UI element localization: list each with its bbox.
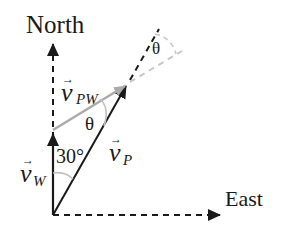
v-w-base: v [20,159,32,188]
angle-30-label: 30° [56,145,84,167]
angle-30-arc [53,173,73,179]
theta-inner-label: θ [85,113,94,134]
theta-outer-label: θ [152,39,160,58]
v-w-sub: W [33,173,47,189]
v-p-base: v [109,138,121,167]
v-pw-sub: PW [75,91,99,107]
v-p-sub: P [122,152,132,168]
vector-diagram: North East → v PW θ θ → v P 30° → v W [0,0,284,242]
theta-inner-arc [100,99,106,126]
east-label: East [225,186,263,211]
diagram-svg: North East → v PW θ θ → v P 30° → v W [0,0,284,242]
v-pw-base: v [61,78,73,107]
north-label: North [26,11,85,38]
